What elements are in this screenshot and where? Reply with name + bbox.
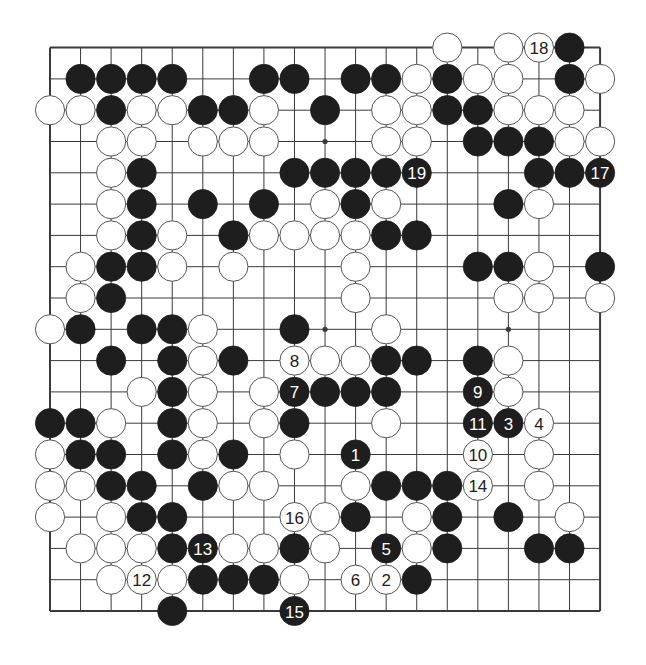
black-stone (219, 221, 248, 250)
move-number: 11 (469, 415, 487, 434)
white-stone (524, 252, 553, 281)
white-stone (494, 96, 523, 125)
white-stone (35, 315, 64, 344)
white-stone (555, 127, 584, 156)
black-stone (219, 96, 248, 125)
move-number: 7 (290, 383, 299, 402)
black-stone (158, 377, 187, 406)
white-stone (341, 471, 370, 500)
black-stone (127, 315, 156, 344)
black-stone (280, 158, 309, 187)
move-number: 18 (529, 39, 548, 58)
black-stone (310, 158, 339, 187)
black-stone (97, 96, 126, 125)
black-stone (158, 409, 187, 438)
move-number: 12 (132, 571, 151, 590)
black-stone (341, 502, 370, 531)
black-stone (280, 409, 309, 438)
white-stone (66, 283, 95, 312)
black-stone (66, 64, 95, 93)
white-stone (35, 440, 64, 469)
move-number: 4 (534, 415, 543, 434)
white-stone (524, 283, 553, 312)
black-stone (249, 64, 278, 93)
white-stone (35, 502, 64, 531)
white-stone (249, 377, 278, 406)
black-stone (372, 158, 401, 187)
white-stone (494, 346, 523, 375)
black-stone (310, 96, 339, 125)
black-stone (372, 64, 401, 93)
black-stone (97, 346, 126, 375)
black-stone (127, 471, 156, 500)
go-board[interactable]: 18191787911341101416135126215 (0, 0, 646, 665)
move-number: 6 (351, 571, 360, 590)
white-stone (97, 127, 126, 156)
white-stone (127, 377, 156, 406)
black-stone (66, 440, 95, 469)
black-stone-move-11: 11 (463, 409, 492, 438)
black-stone (524, 158, 553, 187)
black-stone (555, 64, 584, 93)
white-stone (372, 96, 401, 125)
white-stone (66, 471, 95, 500)
black-stone (97, 252, 126, 281)
white-stone (219, 127, 248, 156)
white-stone (249, 96, 278, 125)
white-stone (219, 252, 248, 281)
white-stone (66, 534, 95, 563)
black-stone (463, 96, 492, 125)
black-stone (463, 346, 492, 375)
white-stone-move-4: 4 (524, 409, 553, 438)
white-stone (402, 502, 431, 531)
black-stone (158, 596, 187, 625)
move-number: 2 (381, 571, 390, 590)
black-stone (402, 565, 431, 594)
white-stone (372, 409, 401, 438)
black-stone-move-7: 7 (280, 377, 309, 406)
white-stone (280, 440, 309, 469)
black-stone (127, 190, 156, 219)
black-stone (372, 346, 401, 375)
black-stone (158, 64, 187, 93)
star-point (322, 139, 327, 144)
black-stone (66, 315, 95, 344)
move-number: 9 (473, 383, 482, 402)
black-stone (341, 64, 370, 93)
black-stone (524, 127, 553, 156)
black-stone-move-15: 15 (280, 596, 309, 625)
black-stone (372, 221, 401, 250)
white-stone (585, 127, 614, 156)
white-stone (280, 221, 309, 250)
move-number: 19 (407, 164, 426, 183)
white-stone (97, 221, 126, 250)
white-stone (310, 221, 339, 250)
black-stone (433, 471, 462, 500)
white-stone (341, 252, 370, 281)
black-stone-move-1: 1 (341, 440, 370, 469)
white-stone (494, 33, 523, 62)
white-stone (127, 534, 156, 563)
black-stone (494, 502, 523, 531)
black-stone (219, 565, 248, 594)
move-number: 3 (504, 415, 513, 434)
black-stone (188, 190, 217, 219)
white-stone (188, 127, 217, 156)
black-stone (127, 64, 156, 93)
white-stone (188, 315, 217, 344)
black-stone (127, 221, 156, 250)
white-stone (341, 221, 370, 250)
white-stone (524, 471, 553, 500)
black-stone-move-9: 9 (463, 377, 492, 406)
white-stone (372, 127, 401, 156)
black-stone (280, 315, 309, 344)
white-stone (402, 127, 431, 156)
white-stone (372, 190, 401, 219)
white-stone (524, 190, 553, 219)
black-stone (433, 64, 462, 93)
move-number: 15 (285, 603, 304, 622)
white-stone (158, 221, 187, 250)
black-stone (555, 158, 584, 187)
white-stone (494, 64, 523, 93)
black-stone (494, 190, 523, 219)
